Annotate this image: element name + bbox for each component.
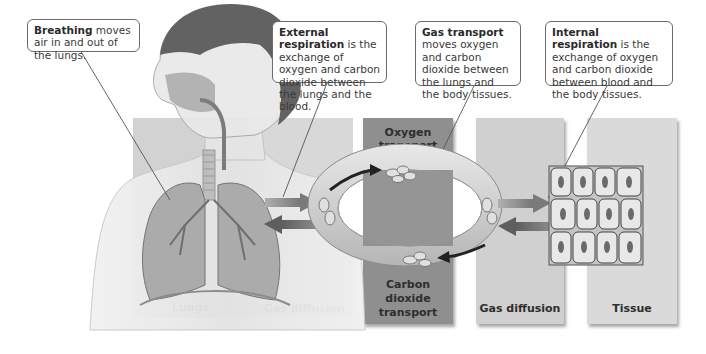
blood-circulation-loop — [308, 144, 502, 267]
callout-transport-term: Gas transport — [422, 26, 504, 38]
callout-internal-respiration: Internal respiration is the exchange of … — [545, 21, 673, 86]
callout-breathing-term: Breathing — [34, 24, 92, 36]
callout-gas-transport: Gas transport moves oxygen and carbon di… — [415, 21, 521, 86]
callout-external-term: External respiration — [279, 26, 344, 50]
callout-external-respiration: External respiration is the exchange of … — [272, 21, 387, 83]
callout-breathing: Breathing moves air in and out of the lu… — [27, 19, 140, 52]
callout-transport-text: moves oxygen and carbon dioxide between … — [422, 38, 512, 100]
callout-internal-term: Internal respiration — [552, 26, 617, 50]
tissue-cells — [549, 166, 643, 265]
internal-exchange-arrows — [498, 194, 551, 236]
